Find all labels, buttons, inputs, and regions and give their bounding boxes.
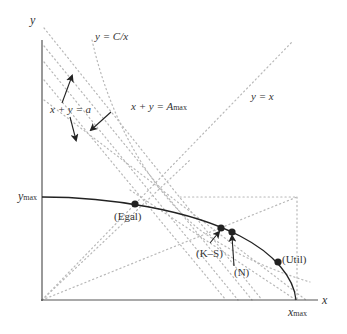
point-egal <box>131 200 138 207</box>
ks-label: (K–S) <box>196 247 223 260</box>
line-sum-a1 <box>44 28 262 300</box>
line-sum-amax <box>44 100 306 300</box>
arrow-sum-down <box>70 117 76 140</box>
x-max-label: xmax <box>287 305 307 319</box>
diagonal-label: y = x <box>250 90 274 102</box>
util-label: (Util) <box>282 253 307 266</box>
line-origin-corner <box>42 197 297 300</box>
line-sum-a2 <box>44 46 252 300</box>
y-axis-label: y <box>29 13 36 27</box>
point-ks <box>217 224 224 231</box>
point-n <box>228 228 235 235</box>
egal-label: (Egal) <box>114 210 142 223</box>
hyperbola-label: y = C/x <box>94 30 128 42</box>
guide-lines <box>42 28 310 300</box>
arrow-sum-up <box>62 76 72 103</box>
arrow-n <box>232 236 234 266</box>
line-sum-a3 <box>44 62 238 300</box>
sum-family-label: x + y = a <box>49 103 92 115</box>
x-axis-label: x <box>321 293 328 307</box>
point-util <box>274 258 281 265</box>
n-label: (N) <box>234 266 250 279</box>
y-max-label: ymax <box>17 189 37 203</box>
bargaining-solutions-diagram: y x ymax xmax y = C/x y = x x + y = a x … <box>0 0 347 334</box>
utility-frontier <box>42 197 296 300</box>
sum-max-label: x + y = Amax <box>130 100 187 112</box>
